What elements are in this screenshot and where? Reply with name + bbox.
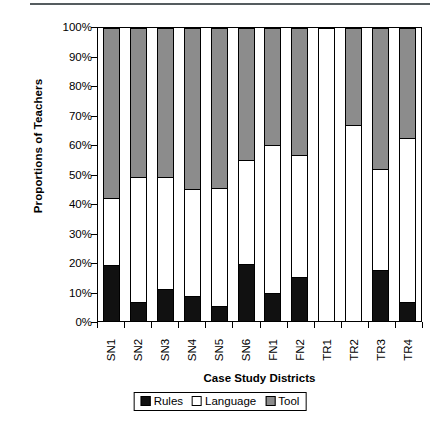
x-tick-label: SN6: [240, 339, 252, 361]
stacked-bar[interactable]: [372, 28, 389, 321]
x-label-slot: SN5: [205, 330, 232, 374]
x-tick-label: FN1: [267, 339, 279, 361]
stacked-bar[interactable]: [130, 28, 147, 321]
bar-segment-language[interactable]: [264, 145, 281, 293]
bar-segment-tool[interactable]: [157, 28, 174, 177]
legend-item[interactable]: Tool: [265, 395, 299, 407]
bar-segment-language[interactable]: [345, 125, 362, 321]
stacked-bar[interactable]: [211, 28, 228, 321]
bar-segment-language[interactable]: [372, 169, 389, 270]
bar-segment-tool[interactable]: [103, 28, 120, 198]
bar-segment-rules[interactable]: [399, 302, 416, 321]
x-axis-tick-labels: SN1SN2SN3SN4SN5SN6FN1FN2TR1TR2TR3TR4: [97, 330, 422, 374]
legend-item[interactable]: Rules: [141, 395, 183, 407]
plot-area: [97, 27, 422, 322]
stacked-bar[interactable]: [291, 28, 308, 321]
y-tick-label: 60%: [69, 139, 92, 151]
bar-segment-rules[interactable]: [157, 289, 174, 321]
bar-slot: [367, 28, 394, 321]
y-tick-label: 50%: [69, 169, 92, 181]
x-tick-label: SN3: [159, 339, 171, 361]
stacked-bar[interactable]: [184, 28, 201, 321]
x-tick-mark: [287, 322, 288, 328]
bar-segment-tool[interactable]: [345, 28, 362, 125]
x-label-slot: TR3: [368, 330, 395, 374]
bar-slot: [152, 28, 179, 321]
bar-segment-language[interactable]: [238, 160, 255, 264]
bar-segment-rules[interactable]: [130, 302, 147, 321]
x-label-slot: SN6: [232, 330, 259, 374]
stacked-bar[interactable]: [238, 28, 255, 321]
y-tick-label: 0%: [75, 316, 92, 328]
legend-label: Tool: [278, 395, 299, 407]
bar-segment-language[interactable]: [130, 177, 147, 302]
bar-slot: [313, 28, 340, 321]
bar-segment-rules[interactable]: [372, 270, 389, 321]
legend-swatch-language: [192, 396, 202, 406]
x-tick-mark: [178, 322, 179, 328]
legend-item[interactable]: Language: [192, 395, 256, 407]
stacked-bar[interactable]: [345, 28, 362, 321]
bar-segment-rules[interactable]: [291, 277, 308, 321]
x-tick-label: TR2: [348, 339, 360, 361]
bar-slot: [394, 28, 421, 321]
x-tick-label: SN4: [186, 339, 198, 361]
bar-segment-language[interactable]: [211, 188, 228, 307]
bar-slot: [340, 28, 367, 321]
bar-segment-rules[interactable]: [238, 264, 255, 321]
bar-segment-tool[interactable]: [211, 28, 228, 188]
stacked-bar[interactable]: [103, 28, 120, 321]
bar-segment-tool[interactable]: [184, 28, 201, 189]
stacked-bar[interactable]: [157, 28, 174, 321]
x-tick-label: SN2: [132, 339, 144, 361]
stacked-bar[interactable]: [264, 28, 281, 321]
bar-segment-language[interactable]: [103, 198, 120, 265]
x-axis-title: Case Study Districts: [97, 372, 422, 384]
bar-segment-language[interactable]: [157, 177, 174, 288]
stacked-bar[interactable]: [318, 28, 335, 321]
bar-segment-language[interactable]: [291, 155, 308, 277]
bar-segment-language[interactable]: [399, 138, 416, 302]
bar-segment-tool[interactable]: [238, 28, 255, 160]
legend-label: Language: [205, 395, 256, 407]
y-tick-label: 40%: [69, 198, 92, 210]
x-tick-label: TR1: [321, 339, 333, 361]
x-tick-mark: [124, 322, 125, 328]
bar-slot: [98, 28, 125, 321]
y-tick-label: 20%: [69, 257, 92, 269]
x-tick-mark: [422, 322, 423, 328]
bar-segment-tool[interactable]: [399, 28, 416, 138]
x-tick-label: TR3: [375, 339, 387, 361]
top-rule-divider: [30, 3, 430, 5]
bar-segment-tool[interactable]: [264, 28, 281, 145]
x-tick-mark: [97, 322, 98, 328]
stacked-bar[interactable]: [399, 28, 416, 321]
x-label-slot: SN4: [178, 330, 205, 374]
legend-label: Rules: [154, 395, 183, 407]
bar-segment-tool[interactable]: [130, 28, 147, 177]
y-tick-label: 10%: [69, 287, 92, 299]
bar-segment-tool[interactable]: [291, 28, 308, 155]
x-tick-mark: [395, 322, 396, 328]
x-label-slot: FN2: [287, 330, 314, 374]
x-tick-label: SN1: [105, 339, 117, 361]
bar-slot: [179, 28, 206, 321]
bar-segment-tool[interactable]: [372, 28, 389, 169]
legend-swatch-rules: [141, 396, 151, 406]
bar-segment-language[interactable]: [184, 189, 201, 296]
chart-legend: RulesLanguageTool: [134, 392, 307, 411]
bar-segment-language[interactable]: [318, 28, 335, 321]
bar-slot: [125, 28, 152, 321]
bar-segment-rules[interactable]: [103, 265, 120, 321]
x-label-slot: TR4: [395, 330, 422, 374]
bar-segment-rules[interactable]: [264, 293, 281, 321]
legend-swatch-tool: [265, 396, 275, 406]
x-label-slot: TR1: [314, 330, 341, 374]
y-tick-label: 30%: [69, 228, 92, 240]
y-tick-label: 70%: [69, 110, 92, 122]
x-tick-mark: [205, 322, 206, 328]
bar-segment-rules[interactable]: [184, 296, 201, 321]
bar-segment-rules[interactable]: [211, 306, 228, 321]
stacked-bar-chart-figure: Proportions of Teachers 100%90%80%70%60%…: [0, 0, 440, 429]
bar-slot: [286, 28, 313, 321]
